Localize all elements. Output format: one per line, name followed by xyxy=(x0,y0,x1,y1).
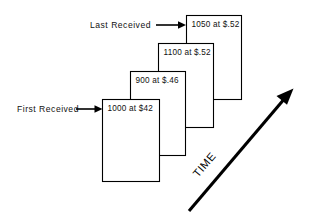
last-received-annotation: Last Received xyxy=(90,20,186,30)
time-axis-label: TIME xyxy=(190,150,218,180)
last-received-label: Last Received xyxy=(90,20,151,30)
last-received-arrow-head xyxy=(178,21,186,29)
first-received-annotation: First Received xyxy=(17,104,103,114)
first-received-label: First Received xyxy=(17,104,79,114)
card-1-label: 1000 at $42 xyxy=(108,104,154,113)
card-3-label: 1100 at $.52 xyxy=(164,48,212,57)
first-received-arrow-head xyxy=(95,105,103,113)
card-4-label: 1050 at $.52 xyxy=(192,20,240,29)
time-arrow-head xyxy=(277,89,294,105)
inventory-layers-diagram: 1050 at $.52 1100 at $.52 900 at $.46 10… xyxy=(0,0,310,219)
card-2-label: 900 at $.46 xyxy=(136,76,179,85)
diagram-canvas: 1050 at $.52 1100 at $.52 900 at $.46 10… xyxy=(0,0,310,219)
inventory-card-1: 1000 at $42 xyxy=(103,100,160,182)
